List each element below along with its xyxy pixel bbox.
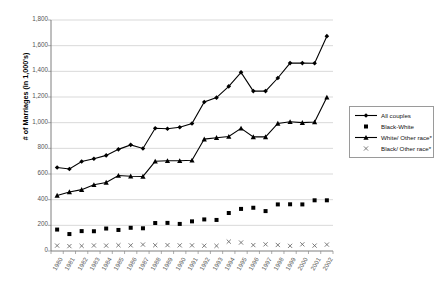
legend-item-label: Black-White bbox=[379, 123, 414, 130]
y-tick-label: 1,600 bbox=[22, 42, 48, 48]
series-all-couples bbox=[55, 34, 329, 171]
legend-item-label: All couples bbox=[379, 112, 411, 119]
legend-marker-icon bbox=[353, 110, 379, 121]
series-black-other-race bbox=[55, 240, 329, 249]
legend-marker-icon bbox=[353, 143, 379, 154]
marriages-line-chart: # of Marriages (in 1,000's) 020040060080… bbox=[0, 0, 436, 282]
legend-item-label: Black/ Other race* bbox=[379, 145, 431, 152]
legend-item[interactable]: All couples bbox=[353, 110, 429, 121]
y-tick-label: 0 bbox=[22, 247, 48, 253]
y-tick-label: 1,200 bbox=[22, 93, 48, 99]
y-tick-label: 800 bbox=[22, 144, 48, 150]
legend-marker-icon bbox=[353, 121, 379, 132]
legend-item-label: White/ Other race* bbox=[379, 134, 432, 141]
y-tick-label: 400 bbox=[22, 196, 48, 202]
legend-item[interactable]: Black-White bbox=[353, 121, 429, 132]
y-tick-label: 200 bbox=[22, 221, 48, 227]
chart-legend: All couplesBlack-WhiteWhite/ Other race*… bbox=[349, 106, 434, 158]
legend-item[interactable]: White/ Other race* bbox=[353, 132, 429, 143]
y-tick-label: 600 bbox=[22, 170, 48, 176]
legend-item[interactable]: Black/ Other race* bbox=[353, 143, 429, 154]
series-black-white bbox=[55, 198, 329, 236]
series-white-other-race bbox=[55, 95, 330, 198]
legend-marker-icon bbox=[353, 132, 379, 143]
y-tick-label: 1,800 bbox=[22, 16, 48, 22]
y-tick-label: 1,000 bbox=[22, 119, 48, 125]
y-tick-label: 1,400 bbox=[22, 67, 48, 73]
